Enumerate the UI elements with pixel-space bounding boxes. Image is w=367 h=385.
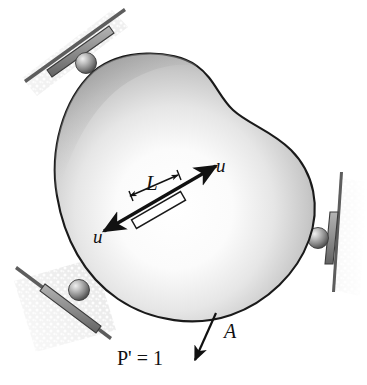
mechanics-figure: L u u A P' = 1 [0,0,367,385]
displacement-label-upper: u [216,155,226,176]
load-label: P' = 1 [117,347,163,369]
figure-canvas: L u u A P' = 1 [0,0,367,385]
length-label: L [145,171,158,195]
support-bottom-left-roller [69,280,90,301]
displacement-label-lower: u [93,226,103,247]
point-label-A: A [222,320,237,342]
support-right [308,172,367,296]
